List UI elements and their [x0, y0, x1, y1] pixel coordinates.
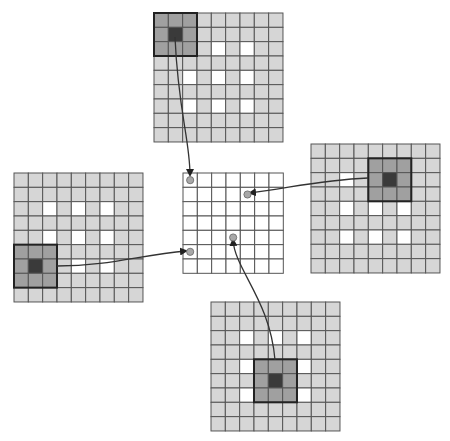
- input-grid-bottom: [211, 302, 340, 431]
- grid-cell: [197, 128, 211, 142]
- grid-cell: [325, 259, 339, 273]
- grid-cell: [254, 42, 268, 56]
- grid-cell: [86, 288, 100, 302]
- grid-cell: [311, 302, 325, 316]
- grid-cell: [129, 187, 143, 201]
- grid-cell: [297, 417, 311, 431]
- grid-cell: [283, 302, 297, 316]
- white-cell: [340, 230, 354, 244]
- output-cell: [240, 202, 254, 216]
- grid-cell: [114, 273, 128, 287]
- grid-cell: [14, 202, 28, 216]
- grid-cell: [211, 56, 225, 70]
- output-cell: [212, 216, 226, 230]
- grid-cell: [340, 144, 354, 158]
- kernel-cell: [383, 187, 397, 201]
- grid-cell: [411, 144, 425, 158]
- output-cell: [212, 245, 226, 259]
- grid-cell: [354, 259, 368, 273]
- grid-cell: [368, 259, 382, 273]
- grid-cell: [71, 216, 85, 230]
- grid-cell: [311, 359, 325, 373]
- grid-cell: [269, 13, 283, 27]
- grid-cell: [240, 27, 254, 41]
- grid-cell: [114, 216, 128, 230]
- grid-cell: [340, 259, 354, 273]
- grid-cell: [311, 316, 325, 330]
- output-cell: [183, 259, 197, 273]
- grid-cell: [311, 187, 325, 201]
- grid-cell: [240, 417, 254, 431]
- output-cell: [240, 245, 254, 259]
- grid-cell: [311, 417, 325, 431]
- white-cell: [43, 202, 57, 216]
- grid-cell: [129, 273, 143, 287]
- grid-cell: [225, 302, 239, 316]
- grid-cell: [129, 173, 143, 187]
- grid-cell: [154, 113, 168, 127]
- grid-cell: [397, 144, 411, 158]
- grid-cell: [197, 56, 211, 70]
- grid-cell: [411, 230, 425, 244]
- grid-cell: [211, 316, 225, 330]
- grid-cell: [383, 144, 397, 158]
- grid-cell: [57, 288, 71, 302]
- white-cell: [43, 230, 57, 244]
- grid-cell: [71, 288, 85, 302]
- grid-cell: [71, 273, 85, 287]
- white-cell: [240, 70, 254, 84]
- white-cell: [297, 331, 311, 345]
- white-cell: [100, 202, 114, 216]
- grid-cell: [268, 302, 282, 316]
- white-cell: [183, 99, 197, 113]
- grid-cell: [340, 216, 354, 230]
- grid-cell: [168, 113, 182, 127]
- grid-cell: [354, 173, 368, 187]
- grid-cell: [311, 388, 325, 402]
- kernel-cell: [183, 42, 197, 56]
- grid-cell: [326, 359, 340, 373]
- output-cell: [269, 202, 283, 216]
- grid-cell: [225, 331, 239, 345]
- grid-cell: [383, 201, 397, 215]
- grid-cell: [311, 216, 325, 230]
- grid-cell: [269, 70, 283, 84]
- grid-cell: [154, 85, 168, 99]
- grid-cell: [326, 374, 340, 388]
- convolution-diagram: [0, 0, 450, 441]
- output-cell: [197, 259, 211, 273]
- grid-cell: [28, 216, 42, 230]
- grid-cell: [283, 417, 297, 431]
- grid-cell: [354, 216, 368, 230]
- input-grid-right: [311, 144, 440, 273]
- output-cell: [197, 202, 211, 216]
- output-cell: [255, 259, 269, 273]
- grid-cell: [269, 42, 283, 56]
- white-cell: [240, 359, 254, 373]
- grid-cell: [226, 42, 240, 56]
- grid-cell: [197, 42, 211, 56]
- grid-cell: [183, 85, 197, 99]
- white-cell: [368, 230, 382, 244]
- grid-cell: [57, 187, 71, 201]
- grid-cell: [43, 187, 57, 201]
- grid-cell: [254, 331, 268, 345]
- grid-cell: [225, 345, 239, 359]
- grid-cell: [283, 316, 297, 330]
- grid-cell: [14, 288, 28, 302]
- grid-cell: [283, 345, 297, 359]
- output-cell: [183, 216, 197, 230]
- kernel-cell: [368, 158, 382, 172]
- grid-cell: [197, 27, 211, 41]
- grid-cell: [297, 374, 311, 388]
- grid-cell: [411, 244, 425, 258]
- grid-cell: [326, 316, 340, 330]
- grid-cell: [354, 187, 368, 201]
- grid-cell: [311, 331, 325, 345]
- grid-cell: [354, 244, 368, 258]
- grid-cell: [57, 245, 71, 259]
- grid-cell: [383, 244, 397, 258]
- grid-cell: [14, 216, 28, 230]
- grid-cell: [86, 187, 100, 201]
- grid-cell: [240, 85, 254, 99]
